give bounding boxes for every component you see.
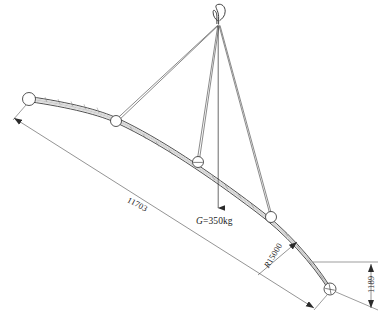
lifting-hook-icon [213,4,225,24]
dim-ext-height-bottom [336,292,378,310]
node-sling-3 [193,157,204,168]
sling-cable-to-node-4-b [220,25,272,216]
drawing-vector-layer [0,0,390,324]
connection-node-group [23,93,337,296]
curved-beam-member [29,97,330,292]
sling-cable-group [115,25,272,216]
beam-hatch-ticks [45,97,323,279]
beam-mid-line-2 [29,100,330,290]
load-symbol: G [196,216,203,226]
dim-ext-right [314,295,327,310]
sling-cable-to-node-3-b [199,25,219,161]
beam-lower-edge [29,102,330,292]
height-dimension-label: 1189 [366,276,376,293]
sling-cable-to-node-3 [197,25,218,160]
dimension-span [13,105,327,310]
sling-cable-to-node-2-b [117,25,218,121]
node-sling-4 [266,212,277,223]
node-left-end [23,93,36,106]
beam-mid-line-1 [29,98,330,288]
node-sling-2 [111,116,122,127]
beam-hatch-line-1 [29,99,330,289]
load-weight-label: G=350kg [196,216,233,226]
dim-ext-left [13,105,26,120]
engineering-drawing-canvas: 11703 R15000 1189 G=350kg [0,0,390,324]
sling-cable-to-node-2 [115,25,217,120]
beam-upper-edge [29,97,330,287]
load-value: 350kg [208,216,232,226]
